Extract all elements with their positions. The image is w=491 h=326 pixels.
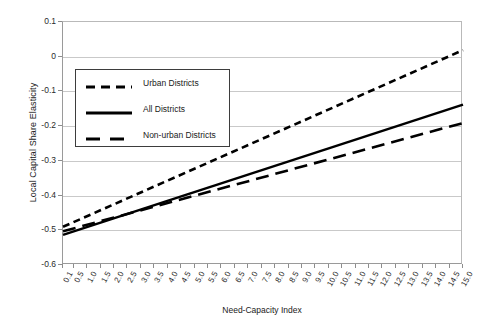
x-axis-title: Need-Capacity Index: [62, 305, 462, 315]
legend-entry: Urban Districts: [76, 70, 229, 96]
y-tick-mark: [58, 229, 62, 230]
y-tick-label: -0.4: [22, 190, 56, 200]
y-tick-label: -0.3: [22, 155, 56, 165]
legend-swatch: [85, 104, 133, 114]
y-tick-label: -0.1: [22, 85, 56, 95]
y-tick-mark: [58, 90, 62, 91]
chart-legend: Urban DistrictsAll DistrictsNon-urban Di…: [75, 69, 230, 147]
y-tick-mark: [58, 21, 62, 22]
legend-label: Non-urban Districts: [143, 130, 216, 140]
y-tick-label: -0.2: [22, 120, 56, 130]
y-tick-label: 0.1: [22, 16, 56, 26]
chart-figure: Local Capital Share Elasticity 0.10-0.1-…: [0, 0, 491, 326]
legend-label: All Districts: [143, 104, 185, 114]
y-tick-label: -0.5: [22, 224, 56, 234]
y-tick-label: 0: [22, 51, 56, 61]
y-tick-mark: [58, 195, 62, 196]
legend-entry: All Districts: [76, 96, 229, 122]
y-tick-mark: [58, 160, 62, 161]
legend-entry: Non-urban Districts: [76, 122, 229, 148]
y-tick-mark: [58, 125, 62, 126]
legend-swatch: [85, 130, 133, 140]
y-tick-label: -0.6: [22, 259, 56, 269]
legend-swatch: [85, 78, 133, 88]
legend-label: Urban Districts: [143, 78, 199, 88]
y-tick-mark: [58, 56, 62, 57]
